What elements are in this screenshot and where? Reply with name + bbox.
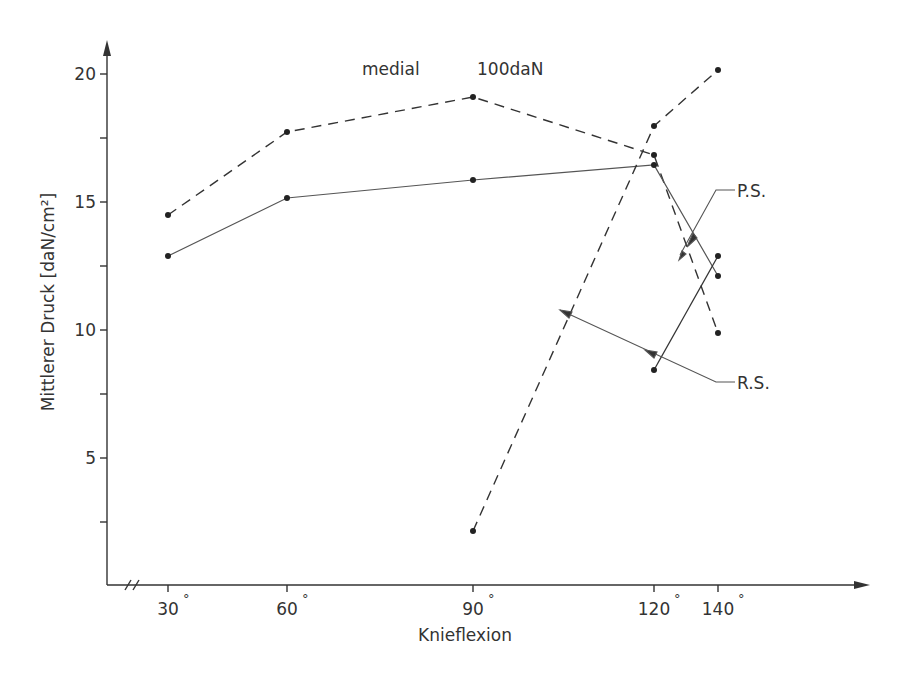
degree-mark: °: [674, 591, 681, 606]
series-rs-dashed: [473, 70, 718, 531]
series-ps-solid: [168, 165, 718, 276]
series-rs-solid: [654, 256, 718, 370]
annotation-force: 100daN: [477, 59, 543, 79]
y-tick-10: 10: [74, 320, 96, 340]
legend-ps: P.S.: [737, 181, 766, 201]
x-tick-140: 140: [702, 599, 734, 619]
x-tick-labels: 30 60 90 120 140 ° ° ° ° °: [157, 591, 744, 619]
annotation-medial: medial: [362, 59, 420, 79]
x-tick-30: 30: [157, 599, 179, 619]
x-tick-60: 60: [276, 599, 298, 619]
y-tick-labels: 20 15 10 5: [74, 64, 96, 468]
axes: [100, 40, 870, 592]
leader-ps: [679, 190, 735, 260]
degree-mark: °: [738, 591, 745, 606]
y-tick-20: 20: [74, 64, 96, 84]
x-axis-arrow-icon: [854, 581, 870, 589]
x-tick-90: 90: [462, 599, 484, 619]
degree-mark: °: [488, 591, 495, 606]
degree-mark: °: [183, 591, 190, 606]
data-point-markers: [165, 67, 721, 534]
y-axis-arrow-icon: [103, 40, 111, 56]
x-axis-title: Knieflexion: [418, 625, 512, 645]
degree-mark: °: [302, 591, 309, 606]
legend-rs: R.S.: [737, 373, 770, 393]
y-axis-title: Mittlerer Druck [daN/cm²]: [38, 193, 58, 411]
y-tick-15: 15: [74, 192, 96, 212]
series-ps-dashed: [168, 97, 718, 333]
y-tick-5: 5: [85, 448, 96, 468]
leader-rs: [560, 310, 735, 382]
x-tick-120: 120: [638, 599, 670, 619]
chart-canvas: 20 15 10 5 30 60 90 120 140 ° ° ° ° ° Kn…: [0, 0, 900, 675]
